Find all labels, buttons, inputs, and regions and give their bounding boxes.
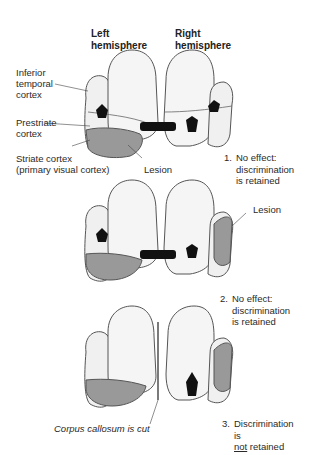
panel-2-brain <box>85 180 233 281</box>
result-2-number: 2. <box>220 293 228 305</box>
result-3-not: not <box>234 441 247 452</box>
result-3-rest: retained <box>247 441 284 452</box>
right-hemisphere-header: Right hemisphere <box>175 28 231 51</box>
label-striate-cortex: Striate cortex (primary visual cortex) <box>16 153 109 175</box>
label-lesion-1: Lesion <box>144 164 172 175</box>
result-3-text: Discrimination is not retained <box>234 418 294 453</box>
panel-3-brain <box>85 306 233 407</box>
left-hemisphere-header: Left hemisphere <box>91 28 147 51</box>
result-3-number: 3. <box>222 418 230 430</box>
result-1-number: 1. <box>224 152 232 164</box>
panel-1-brain <box>85 50 233 158</box>
label-prestriate-cortex: Prestriate cortex <box>16 117 57 139</box>
result-3-line1: Discrimination is <box>234 418 294 441</box>
result-2-text: No effect: discrimination is retained <box>232 293 290 328</box>
label-corpus-callosum-cut: Corpus callosum is cut <box>54 423 150 434</box>
result-1-text: No effect: discrimination is retained <box>236 152 294 187</box>
label-inferior-temporal-cortex: Inferior temporal cortex <box>16 67 53 100</box>
label-lesion-2: Lesion <box>253 204 281 215</box>
